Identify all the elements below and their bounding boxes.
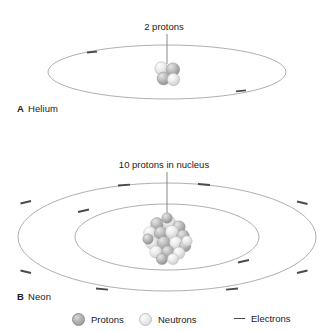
neutron-sphere-icon: [167, 73, 179, 85]
neutron-sphere-icon: [167, 253, 178, 264]
panel-name-helium: Helium: [28, 103, 58, 114]
helium-electron-2: [236, 90, 246, 91]
neon-electron-outer-7: [96, 289, 108, 290]
legend-label-electrons: Electrons: [251, 313, 291, 324]
proton-sphere-icon: [143, 234, 153, 244]
panel-letter-a: A: [17, 103, 24, 114]
legend-label-protons: Protons: [91, 314, 124, 325]
proton-sphere-icon: [162, 213, 172, 223]
legend-item-neutrons: Neutrons: [139, 313, 197, 326]
neon-electron-outer-6: [297, 271, 308, 274]
atom-diagram-figure: 2 protons 10 protons in nucleus AHelium …: [0, 0, 328, 331]
legend-label-neutrons: Neutrons: [158, 314, 197, 325]
helium-electron-1: [87, 52, 97, 53]
proton-sphere-icon: [72, 313, 85, 326]
neon-electron-inner-2: [238, 260, 249, 263]
neon-electron-outer-2: [198, 184, 210, 185]
neon-electron-outer-5: [21, 271, 32, 274]
neon-electron-outer-8: [226, 289, 238, 290]
helium-callout-label: 2 protons: [0, 21, 328, 32]
neon-atom-group: [18, 172, 316, 291]
neon-electron-outer-4: [297, 202, 308, 205]
neon-nucleus: [143, 213, 192, 265]
neon-electron-outer-1: [118, 185, 130, 186]
neutron-sphere-icon: [182, 236, 192, 246]
neon-electron-outer-3: [21, 201, 32, 204]
helium-nucleus: [155, 62, 180, 86]
proton-sphere-icon: [156, 253, 167, 264]
electron-dash-icon: [234, 318, 245, 319]
legend: Protons Neutrons Electrons: [0, 309, 328, 331]
legend-item-protons: Protons: [72, 313, 124, 326]
legend-item-electrons: Electrons: [234, 313, 291, 324]
panel-name-neon: Neon: [28, 291, 51, 302]
helium-atom-group: [48, 34, 286, 99]
panel-caption-neon: BNeon: [17, 291, 51, 302]
neon-electron-inner-1: [78, 210, 89, 213]
neon-callout-label: 10 protons in nucleus: [0, 159, 328, 170]
neutron-sphere-icon: [139, 313, 152, 326]
panel-letter-b: B: [17, 291, 24, 302]
panel-caption-helium: AHelium: [17, 103, 58, 114]
